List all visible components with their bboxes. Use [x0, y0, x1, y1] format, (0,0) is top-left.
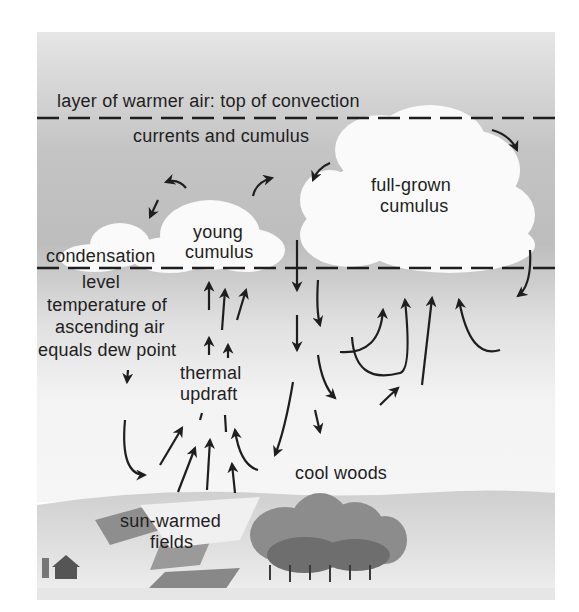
label-sun-warmed: sun-warmed	[120, 511, 221, 531]
label-top-of-convection: layer of warmer air: top of convection	[57, 91, 360, 111]
label-temperature-of: temperature of	[47, 295, 167, 315]
convection-diagram: layer of warmer air: top of convection c…	[0, 0, 579, 612]
label-young-cumulus: cumulus	[185, 242, 253, 262]
label-updraft: updraft	[180, 384, 237, 404]
label-equals-dew-point: equals dew point	[38, 340, 176, 360]
label-currents-and-cumulus: currents and cumulus	[133, 126, 309, 146]
label-full-grown-cumulus: cumulus	[380, 196, 448, 216]
label-young: young	[193, 222, 243, 242]
label-fields: fields	[150, 532, 193, 552]
label-cool-woods: cool woods	[295, 463, 387, 483]
label-thermal: thermal	[180, 363, 241, 383]
label-condensation: condensation	[46, 246, 156, 266]
landscape	[37, 491, 555, 601]
label-full-grown: full-grown	[371, 175, 451, 195]
label-ascending-air: ascending air	[55, 317, 165, 337]
label-level: level	[82, 272, 120, 292]
